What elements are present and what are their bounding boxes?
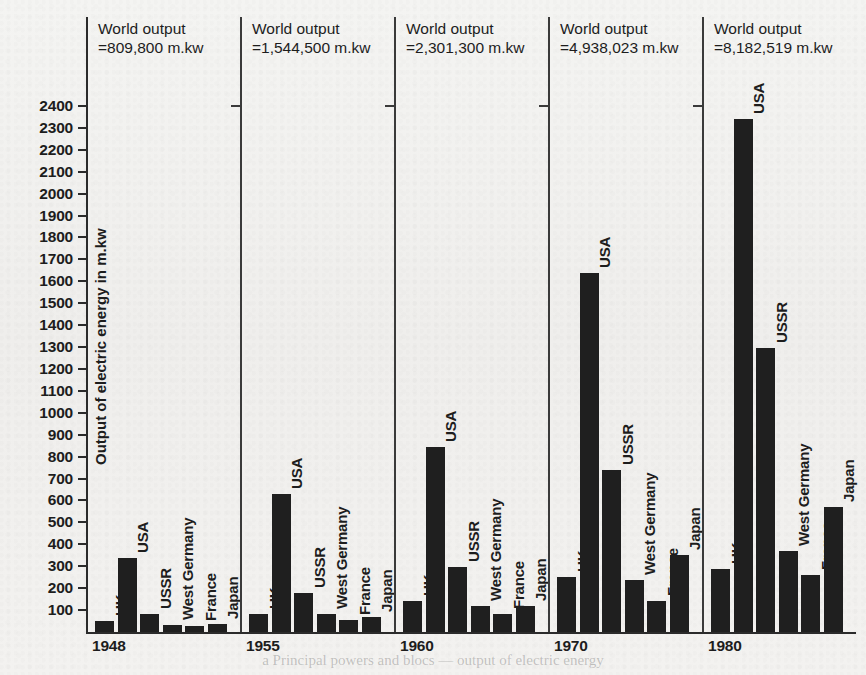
bar-label: Japan <box>686 508 703 550</box>
bar <box>118 558 137 632</box>
group-world-output-note: World output=4,938,023 m.kw <box>560 19 678 57</box>
y-axis-tick <box>78 302 87 304</box>
bar-label: West Germany <box>795 444 812 546</box>
bar <box>625 580 644 632</box>
bar-label: USSR <box>773 302 790 343</box>
group-world-output-note: World output=8,182,519 m.kw <box>714 19 832 57</box>
bar <box>602 470 621 632</box>
y-axis-tick <box>78 565 87 567</box>
bar <box>403 601 422 632</box>
y-axis-tick <box>78 587 87 589</box>
y-axis-tick-label: 1500 <box>17 294 73 312</box>
y-axis-tick-label: 600 <box>17 491 73 509</box>
bar <box>317 614 336 632</box>
bar-label: France <box>202 573 219 621</box>
bar <box>272 494 291 632</box>
world-output-value: =1,544,500 m.kw <box>252 38 370 57</box>
world-output-label: World output <box>560 19 678 38</box>
y-axis-tick <box>78 215 87 217</box>
y-axis-tick-label: 1100 <box>17 382 73 400</box>
y-axis-tick <box>78 346 87 348</box>
y-axis-tick-label: 2000 <box>17 185 73 203</box>
group-separator <box>394 17 396 632</box>
bar-label: Japan <box>840 459 857 501</box>
y-axis-tick-label: 800 <box>17 448 73 466</box>
y-axis-tick <box>78 193 87 195</box>
plot-area: Output of electric energy in m.kw 100200… <box>86 95 856 632</box>
group-world-output-note: World output=809,800 m.kw <box>98 19 204 57</box>
group-world-output-note: World output=2,301,300 m.kw <box>406 19 524 57</box>
y-axis-tick-label: 1800 <box>17 228 73 246</box>
y-axis-tick <box>78 236 87 238</box>
bar-label: USSR <box>465 521 482 562</box>
y-axis-tick <box>78 324 87 326</box>
bar <box>493 614 512 632</box>
bar <box>208 624 227 632</box>
bar <box>448 567 467 632</box>
y-axis-tick-label: 1400 <box>17 316 73 334</box>
bar-label: Japan <box>378 569 395 611</box>
bar-label: USSR <box>157 569 174 610</box>
y-axis-tick <box>78 412 87 414</box>
y-axis-tick <box>78 390 87 392</box>
bar-label: USSR <box>311 548 328 589</box>
y-axis-tick-label: 1600 <box>17 272 73 290</box>
bar-label: USA <box>442 411 459 442</box>
y-axis-tick-label: 1300 <box>17 338 73 356</box>
world-output-value: =8,182,519 m.kw <box>714 38 832 57</box>
x-axis-baseline <box>86 632 856 634</box>
bar <box>824 507 843 632</box>
bar-label: Japan <box>532 558 549 600</box>
y-axis-tick <box>78 171 87 173</box>
y-axis-tick <box>78 478 87 480</box>
bar-label: West Germany <box>333 507 350 609</box>
y-axis-tick <box>78 499 87 501</box>
group-separator <box>702 17 704 632</box>
bar <box>557 577 576 632</box>
y-axis-tick <box>78 280 87 282</box>
y-axis-tick-label: 1000 <box>17 404 73 422</box>
world-output-label: World output <box>406 19 524 38</box>
group-separator-tick <box>385 105 394 107</box>
bar-label: West Germany <box>641 473 658 575</box>
bar <box>580 273 599 632</box>
bar <box>779 551 798 632</box>
y-axis-tick-label: 1700 <box>17 250 73 268</box>
bar-label: USA <box>750 83 767 114</box>
page-caption-ghost-text: a Principal powers and blocs — output of… <box>0 652 866 675</box>
group-separator-tick <box>539 105 548 107</box>
group-separator-tick <box>693 105 702 107</box>
bar <box>471 606 490 632</box>
y-axis-tick-label: 400 <box>17 535 73 553</box>
y-axis-tick-label: 100 <box>17 601 73 619</box>
group-separator <box>548 17 550 632</box>
bar <box>185 626 204 632</box>
world-output-label: World output <box>252 19 370 38</box>
bar-label: France <box>356 567 373 615</box>
world-output-label: World output <box>714 19 832 38</box>
bar <box>756 348 775 632</box>
y-axis-tick <box>78 258 87 260</box>
y-axis-title: Output of electric energy in m.kw <box>92 228 109 465</box>
bar <box>516 606 535 632</box>
bar-label: USSR <box>619 424 636 465</box>
bar <box>339 620 358 632</box>
bar <box>734 119 753 632</box>
bar-chart: Output of electric energy in m.kw 100200… <box>0 0 866 675</box>
y-axis-tick-label: 700 <box>17 470 73 488</box>
bar-label: USA <box>134 522 151 553</box>
bar <box>294 593 313 632</box>
y-axis-tick-label: 300 <box>17 557 73 575</box>
bar-label: USA <box>288 458 305 489</box>
bar-label: West Germany <box>179 518 196 620</box>
y-axis-tick <box>78 368 87 370</box>
y-axis-tick-label: 2100 <box>17 163 73 181</box>
bar-label: West Germany <box>487 498 504 600</box>
y-axis-tick-label: 2200 <box>17 141 73 159</box>
bar <box>801 575 820 632</box>
bar <box>426 447 445 632</box>
bar <box>711 569 730 632</box>
y-axis-tick-label: 200 <box>17 579 73 597</box>
group-world-output-note: World output=1,544,500 m.kw <box>252 19 370 57</box>
y-axis-tick-label: 1200 <box>17 360 73 378</box>
